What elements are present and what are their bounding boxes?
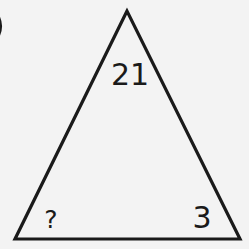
top-number: 21: [111, 57, 149, 92]
bottom-left-unknown: ?: [44, 205, 57, 234]
triangle-diagram: 21 ? 3: [0, 0, 249, 249]
partial-parenthesis-glyph: [0, 10, 1, 40]
bottom-right-number: 3: [192, 200, 211, 235]
